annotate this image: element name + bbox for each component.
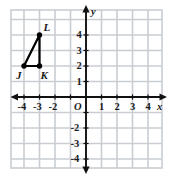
origin-label: O [74, 102, 82, 113]
vertex-label-l: L [44, 22, 51, 33]
y-axis-label-2: 2 [77, 61, 82, 72]
x-axis-label-neg3: -3 [33, 102, 42, 113]
vertex-dot-k [37, 63, 42, 68]
y-axis-label-4: 4 [77, 30, 82, 41]
x-axis-arrow-right [160, 93, 168, 100]
vertex-label-j: J [16, 70, 22, 81]
x-axis-label-4: 4 [146, 102, 151, 113]
x-axis-label-2: 2 [115, 102, 120, 113]
y-axis-label-neg4: -4 [71, 154, 80, 165]
coordinate-plane-canvas [0, 0, 171, 176]
y-axis-label-1: 1 [77, 77, 82, 88]
x-axis-label-neg4: -4 [18, 102, 27, 113]
x-axis-name: x [157, 102, 162, 113]
x-axis-label-neg2: -2 [49, 102, 58, 113]
vertex-dot-j [21, 63, 26, 68]
y-axis-label-3: 3 [77, 46, 82, 57]
x-axis-label-1: 1 [99, 102, 104, 113]
y-axis-arrow-up [82, 5, 89, 13]
axis-lines [11, 5, 168, 174]
vertex-dot-l [37, 32, 42, 37]
x-axis-label-3: 3 [130, 102, 135, 113]
y-axis-arrow-down [82, 167, 89, 175]
coordinate-plane-figure: -4-3-212344321-2-3-4OxyLJK [0, 0, 171, 176]
y-axis-label-neg2: -2 [71, 123, 80, 134]
y-axis-label-neg3: -3 [71, 139, 80, 150]
y-axis-name: y [91, 7, 96, 18]
vertex-label-k: K [41, 70, 48, 81]
